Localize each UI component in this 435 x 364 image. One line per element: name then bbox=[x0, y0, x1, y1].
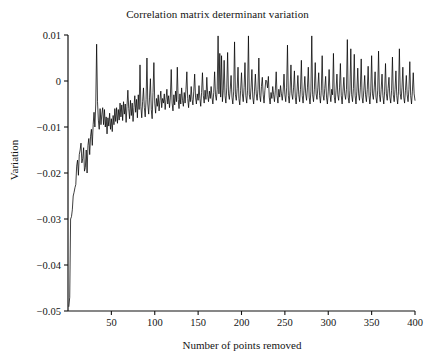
x-tick-label: 300 bbox=[320, 317, 336, 328]
x-axis-label: Number of points removed bbox=[68, 339, 416, 351]
y-tick-label: 0.01 bbox=[43, 30, 61, 41]
y-tick-group: 0.010−0.01−0.02−0.03−0.04−0.05 bbox=[37, 30, 68, 317]
x-tick-label: 200 bbox=[234, 317, 250, 328]
x-tick-label: 50 bbox=[106, 317, 117, 328]
x-tick-label: 150 bbox=[190, 317, 206, 328]
y-tick-label: −0.03 bbox=[37, 214, 61, 225]
data-series-line bbox=[69, 36, 415, 306]
x-tick-group: 50100150200250300350400 bbox=[106, 311, 423, 328]
y-tick-label: 0 bbox=[56, 76, 61, 87]
y-tick-label: −0.05 bbox=[37, 306, 61, 317]
plot-area: 0.010−0.01−0.02−0.03−0.04−0.05 501001502… bbox=[0, 0, 435, 364]
x-tick-label: 350 bbox=[364, 317, 380, 328]
y-axis-label: Variation bbox=[8, 120, 20, 200]
y-tick-label: −0.01 bbox=[37, 122, 61, 133]
y-tick-label: −0.02 bbox=[37, 168, 61, 179]
y-tick-label: −0.04 bbox=[37, 260, 62, 271]
x-tick-label: 100 bbox=[147, 317, 163, 328]
x-tick-label: 250 bbox=[277, 317, 293, 328]
x-tick-label: 400 bbox=[407, 317, 423, 328]
chart-figure: Correlation matrix determinant variation… bbox=[0, 0, 435, 364]
